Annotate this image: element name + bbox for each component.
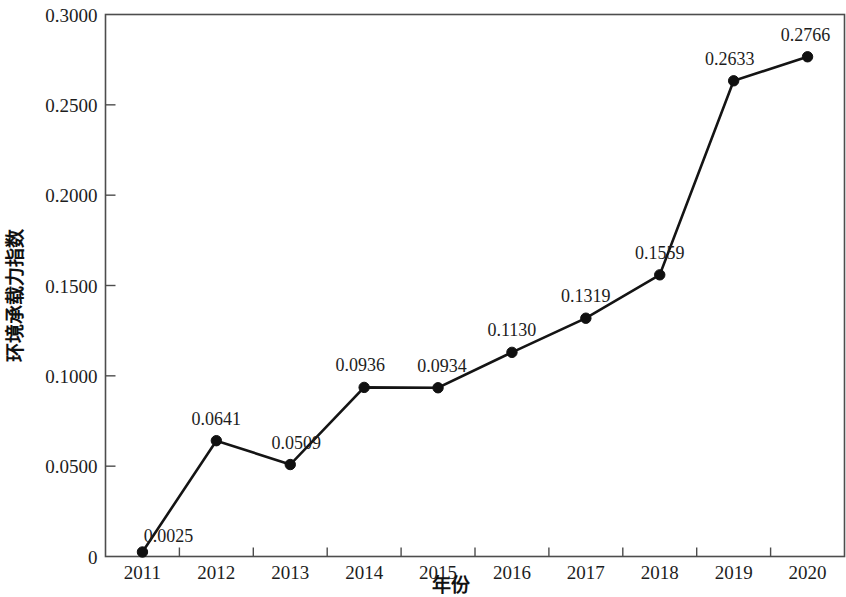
- x-tick-label: 2014: [345, 562, 384, 583]
- data-point-label: 0.2766: [781, 25, 831, 45]
- x-tick-label: 2012: [197, 562, 235, 583]
- y-tick-label: 0.0500: [45, 456, 97, 477]
- data-point: [581, 313, 591, 323]
- series-line: [142, 57, 807, 552]
- data-point-label: 0.0509: [272, 433, 322, 453]
- data-point-label: 0.1559: [635, 243, 685, 263]
- x-tick-label: 2019: [715, 562, 753, 583]
- y-axis-title: 环境承载力指数: [4, 228, 26, 362]
- data-point: [433, 383, 443, 393]
- data-point: [802, 52, 812, 62]
- x-tick-label: 2016: [493, 562, 531, 583]
- x-tick-label: 2017: [567, 562, 605, 583]
- data-point: [507, 347, 517, 357]
- y-tick-label: 0.1500: [45, 276, 97, 297]
- x-axis-title: 年份: [432, 574, 471, 596]
- y-tick-label: 0.1000: [45, 366, 97, 387]
- y-tick-label: 0.2500: [45, 95, 97, 116]
- x-axis-ticks: [179, 548, 770, 557]
- data-point-label: 0.1130: [488, 320, 537, 340]
- line-chart: 00.05000.10000.15000.20000.25000.3000 20…: [0, 0, 846, 597]
- data-point: [728, 76, 738, 86]
- data-point-label: 0.0936: [335, 355, 385, 375]
- x-tick-label: 2011: [124, 562, 161, 583]
- x-tick-label: 2018: [641, 562, 679, 583]
- y-tick-label: 0: [88, 547, 98, 568]
- data-point-label: 0.2633: [705, 49, 755, 69]
- y-tick-label: 0.3000: [45, 5, 97, 26]
- data-point-labels: 0.00250.06410.05090.09360.09340.11300.13…: [144, 25, 831, 546]
- data-series: [137, 52, 813, 558]
- plot-frame: [106, 15, 845, 557]
- data-point-label: 0.0025: [144, 526, 194, 546]
- data-point: [359, 382, 369, 392]
- data-point-label: 0.1319: [561, 286, 611, 306]
- chart-container: 00.05000.10000.15000.20000.25000.3000 20…: [0, 0, 846, 597]
- data-point-label: 0.0641: [192, 409, 242, 429]
- data-point: [285, 459, 295, 469]
- y-tick-label: 0.2000: [45, 185, 97, 206]
- data-point-label: 0.0934: [417, 356, 467, 376]
- data-point: [137, 547, 147, 557]
- x-tick-label: 2020: [789, 562, 827, 583]
- x-axis: 2011201220132014201520162017201820192020: [124, 562, 827, 583]
- x-tick-label: 2013: [271, 562, 309, 583]
- data-point: [655, 270, 665, 280]
- data-point: [211, 435, 221, 445]
